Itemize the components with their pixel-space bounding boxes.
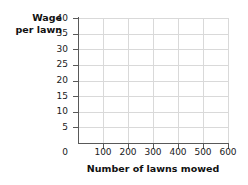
y-axis-tick bbox=[73, 65, 78, 66]
y-axis-tick-label: 15 bbox=[42, 92, 68, 101]
gridline-vertical bbox=[178, 18, 179, 143]
y-axis-tick bbox=[73, 18, 78, 19]
y-axis-tick-label: 25 bbox=[42, 60, 68, 69]
chart-container: Wage per lawn 51015202530354010020030040… bbox=[0, 0, 248, 185]
gridline-vertical bbox=[203, 18, 204, 143]
gridline-vertical bbox=[153, 18, 154, 143]
gridline-vertical bbox=[103, 18, 104, 143]
y-axis-tick-label: 30 bbox=[42, 45, 68, 54]
x-axis-tick-label: 600 bbox=[213, 148, 243, 157]
y-axis-tick bbox=[73, 34, 78, 35]
gridline-vertical bbox=[228, 18, 229, 143]
y-axis-origin-label: 0 bbox=[58, 148, 72, 157]
y-axis-tick-label: 5 bbox=[42, 123, 68, 132]
gridline-vertical bbox=[128, 18, 129, 143]
y-axis-tick-label: 40 bbox=[42, 14, 68, 23]
y-axis-tick-label: 20 bbox=[42, 76, 68, 85]
y-axis-tick bbox=[73, 49, 78, 50]
x-axis-title: Number of lawns mowed bbox=[78, 163, 228, 174]
y-axis-line bbox=[78, 17, 79, 144]
y-axis-tick bbox=[73, 127, 78, 128]
y-axis-tick bbox=[73, 81, 78, 82]
plot-area bbox=[78, 18, 228, 143]
y-axis-tick bbox=[73, 96, 78, 97]
y-axis-tick-label: 35 bbox=[42, 29, 68, 38]
y-axis-tick-label: 10 bbox=[42, 107, 68, 116]
y-axis-tick bbox=[73, 112, 78, 113]
